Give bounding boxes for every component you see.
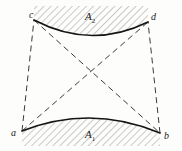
area-label-A2-base: A bbox=[85, 10, 92, 22]
area-label-A1: A1 bbox=[85, 129, 95, 143]
dashed-edge-a-c bbox=[22, 20, 34, 131]
hatching-upper-arc bbox=[28, 2, 156, 54]
area-label-A2: A2 bbox=[85, 11, 95, 25]
dashed-edge-b-d bbox=[148, 22, 160, 133]
vertex-label-a: a bbox=[11, 128, 16, 138]
dashed-diagonal-a-d bbox=[22, 22, 148, 131]
dashed-diagonal-c-b bbox=[34, 20, 160, 133]
area-label-A1-base: A bbox=[85, 128, 92, 140]
vertex-label-d: d bbox=[151, 12, 156, 22]
area-label-A1-subscript: 1 bbox=[92, 135, 96, 143]
vertex-label-c: c bbox=[29, 10, 33, 20]
geometric-figure: c d a b A2 A1 bbox=[0, 0, 182, 151]
vertex-label-b: b bbox=[164, 131, 169, 141]
area-label-A2-subscript: 2 bbox=[92, 17, 96, 25]
